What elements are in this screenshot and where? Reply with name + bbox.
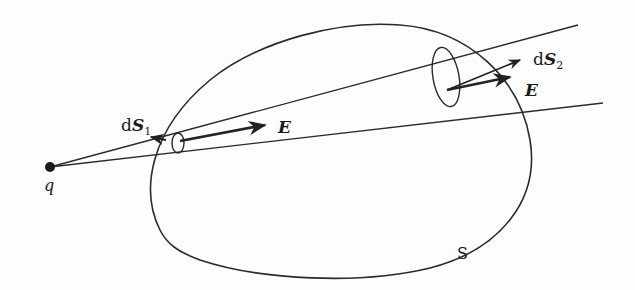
area2-label: dS2 [533,49,563,72]
area1-label: dS1 [121,115,151,138]
field2-label: E [524,80,539,100]
flux-diagram: q S dS1 E dS2 E [0,0,635,290]
cone-line-upper [50,25,578,167]
field-arrow-2 [447,77,510,90]
charge-label: q [44,176,54,195]
point-charge [45,162,55,172]
cone-line-lower [50,103,603,167]
area-element-1 [172,133,184,153]
field-arrow-1 [180,125,265,141]
closed-surface [151,24,532,278]
field1-label: E [277,117,292,137]
area-element-2 [428,45,464,109]
surface-label: S [457,244,468,263]
